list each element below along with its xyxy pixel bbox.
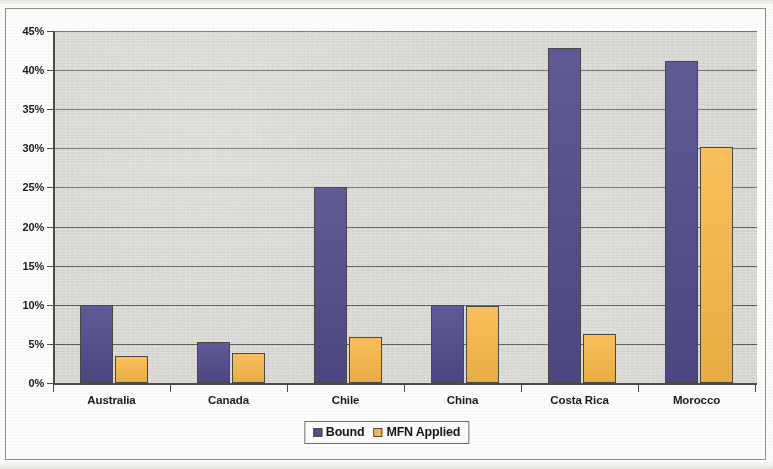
- bar-chart-figure: 0%5%10%15%20%25%30%35%40%45% AustraliaCa…: [0, 0, 773, 469]
- bar-morocco-mfn-applied: [700, 147, 733, 383]
- plot-area: [53, 31, 757, 385]
- bar-chile-bound: [314, 187, 347, 383]
- legend-label: MFN Applied: [386, 425, 460, 439]
- x-axis-category-label: Australia: [87, 394, 135, 406]
- y-axis-tick-mark: [47, 31, 53, 32]
- y-axis-tick-label: 25%: [0, 181, 44, 193]
- x-axis-tick-mark: [287, 385, 288, 392]
- scan-edge-bottom: [0, 462, 773, 469]
- y-axis-tick-mark: [47, 266, 53, 267]
- y-axis-tick-mark: [47, 148, 53, 149]
- gridline: [55, 227, 757, 228]
- y-axis-tick-label: 45%: [0, 25, 44, 37]
- y-axis-tick-label: 0%: [0, 377, 44, 389]
- x-axis-category-label: Chile: [332, 394, 360, 406]
- x-axis-tick-mark: [521, 385, 522, 392]
- y-axis-tick-label: 35%: [0, 103, 44, 115]
- x-axis-tick-mark: [404, 385, 405, 392]
- bar-costa-rica-mfn-applied: [583, 334, 616, 383]
- y-axis-tick-mark: [47, 344, 53, 345]
- legend-item-mfn-applied: MFN Applied: [373, 425, 460, 439]
- y-axis-tick-mark: [47, 187, 53, 188]
- scanned-page: 0%5%10%15%20%25%30%35%40%45% AustraliaCa…: [0, 0, 773, 469]
- y-axis-tick-label: 20%: [0, 221, 44, 233]
- gridline: [55, 31, 757, 32]
- bar-canada-mfn-applied: [232, 353, 265, 383]
- chart-legend: BoundMFN Applied: [304, 421, 469, 444]
- x-axis-tick-mark: [755, 385, 756, 392]
- y-axis-tick-mark: [47, 383, 53, 384]
- y-axis-tick-label: 40%: [0, 64, 44, 76]
- x-axis-tick-mark: [53, 385, 54, 392]
- gridline: [55, 148, 757, 149]
- bar-morocco-bound: [665, 61, 698, 383]
- x-axis-category-label: Morocco: [673, 394, 720, 406]
- paper-texture: [55, 31, 757, 383]
- gridline: [55, 266, 757, 267]
- bar-costa-rica-bound: [548, 48, 581, 383]
- bar-china-mfn-applied: [466, 306, 499, 383]
- y-axis-tick-mark: [47, 109, 53, 110]
- bar-chile-mfn-applied: [349, 337, 382, 383]
- y-axis-tick-mark: [47, 70, 53, 71]
- x-axis-category-label: China: [447, 394, 478, 406]
- y-axis-tick-label: 15%: [0, 260, 44, 272]
- bar-australia-bound: [80, 305, 113, 383]
- y-axis-tick-label: 10%: [0, 299, 44, 311]
- gridline: [55, 70, 757, 71]
- bar-australia-mfn-applied: [115, 356, 148, 383]
- x-axis-tick-mark: [170, 385, 171, 392]
- gridline: [55, 109, 757, 110]
- legend-swatch-icon: [373, 428, 382, 437]
- x-axis-tick-mark: [638, 385, 639, 392]
- x-axis-category-label: Canada: [208, 394, 249, 406]
- y-axis-tick-mark: [47, 227, 53, 228]
- gridline: [55, 344, 757, 345]
- gridline: [55, 305, 757, 306]
- x-axis-category-label: Costa Rica: [550, 394, 608, 406]
- legend-item-bound: Bound: [313, 425, 365, 439]
- y-axis-tick-label: 30%: [0, 142, 44, 154]
- gridline: [55, 187, 757, 188]
- legend-label: Bound: [326, 425, 365, 439]
- bar-canada-bound: [197, 342, 230, 383]
- legend-swatch-icon: [313, 428, 322, 437]
- bar-china-bound: [431, 305, 464, 383]
- y-axis-tick-label: 5%: [0, 338, 44, 350]
- y-axis-tick-mark: [47, 305, 53, 306]
